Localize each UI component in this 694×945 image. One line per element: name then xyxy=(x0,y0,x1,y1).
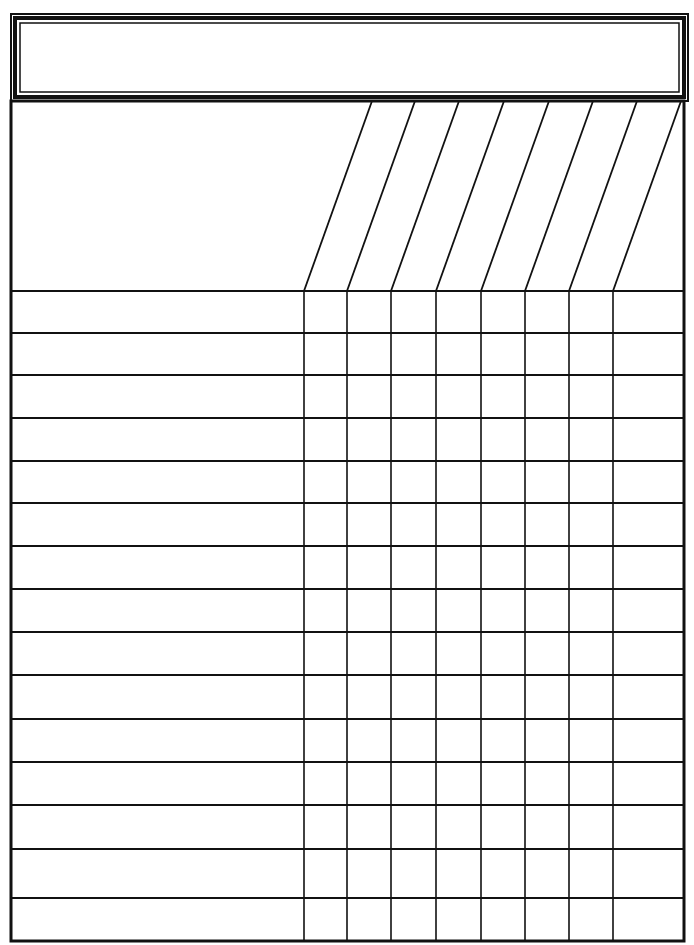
check-cell[interactable] xyxy=(481,675,525,719)
check-cell[interactable] xyxy=(613,805,684,849)
check-cell[interactable] xyxy=(569,418,613,461)
check-cell[interactable] xyxy=(613,418,684,461)
check-cell[interactable] xyxy=(391,675,436,719)
check-cell[interactable] xyxy=(347,632,391,675)
row-label-cell[interactable] xyxy=(11,719,304,762)
check-cell[interactable] xyxy=(525,805,569,849)
check-cell[interactable] xyxy=(481,461,525,503)
check-cell[interactable] xyxy=(481,333,525,375)
check-cell[interactable] xyxy=(525,898,569,941)
check-cell[interactable] xyxy=(304,461,347,503)
check-cell[interactable] xyxy=(481,632,525,675)
check-cell[interactable] xyxy=(304,849,347,898)
check-cell[interactable] xyxy=(391,589,436,632)
row-label-cell[interactable] xyxy=(11,805,304,849)
row-label-cell[interactable] xyxy=(11,675,304,719)
check-cell[interactable] xyxy=(613,503,684,546)
check-cell[interactable] xyxy=(391,546,436,589)
check-cell[interactable] xyxy=(436,632,481,675)
check-cell[interactable] xyxy=(613,675,684,719)
check-cell[interactable] xyxy=(569,849,613,898)
check-cell[interactable] xyxy=(347,849,391,898)
check-cell[interactable] xyxy=(347,503,391,546)
check-cell[interactable] xyxy=(525,849,569,898)
check-cell[interactable] xyxy=(347,418,391,461)
check-cell[interactable] xyxy=(481,291,525,333)
check-cell[interactable] xyxy=(436,675,481,719)
check-cell[interactable] xyxy=(436,461,481,503)
check-cell[interactable] xyxy=(436,849,481,898)
row-label-cell[interactable] xyxy=(11,375,304,418)
check-cell[interactable] xyxy=(304,546,347,589)
check-cell[interactable] xyxy=(525,418,569,461)
check-cell[interactable] xyxy=(481,589,525,632)
check-cell[interactable] xyxy=(391,333,436,375)
check-cell[interactable] xyxy=(613,589,684,632)
check-cell[interactable] xyxy=(347,546,391,589)
check-cell[interactable] xyxy=(436,719,481,762)
check-cell[interactable] xyxy=(391,762,436,805)
check-cell[interactable] xyxy=(304,418,347,461)
check-cell[interactable] xyxy=(304,719,347,762)
check-cell[interactable] xyxy=(569,762,613,805)
check-cell[interactable] xyxy=(613,461,684,503)
check-cell[interactable] xyxy=(436,546,481,589)
row-label-cell[interactable] xyxy=(11,589,304,632)
check-cell[interactable] xyxy=(525,632,569,675)
check-cell[interactable] xyxy=(436,375,481,418)
check-cell[interactable] xyxy=(525,589,569,632)
check-cell[interactable] xyxy=(436,418,481,461)
check-cell[interactable] xyxy=(481,898,525,941)
check-cell[interactable] xyxy=(569,503,613,546)
check-cell[interactable] xyxy=(436,333,481,375)
check-cell[interactable] xyxy=(525,762,569,805)
check-cell[interactable] xyxy=(569,805,613,849)
check-cell[interactable] xyxy=(347,805,391,849)
row-label-cell[interactable] xyxy=(11,632,304,675)
check-cell[interactable] xyxy=(481,762,525,805)
check-cell[interactable] xyxy=(481,503,525,546)
check-cell[interactable] xyxy=(304,805,347,849)
check-cell[interactable] xyxy=(613,291,684,333)
check-cell[interactable] xyxy=(569,632,613,675)
row-label-cell[interactable] xyxy=(11,898,304,941)
row-label-cell[interactable] xyxy=(11,333,304,375)
check-cell[interactable] xyxy=(436,589,481,632)
check-cell[interactable] xyxy=(391,898,436,941)
check-cell[interactable] xyxy=(481,546,525,589)
check-cell[interactable] xyxy=(436,503,481,546)
check-cell[interactable] xyxy=(347,333,391,375)
check-cell[interactable] xyxy=(569,375,613,418)
check-cell[interactable] xyxy=(613,375,684,418)
check-cell[interactable] xyxy=(613,849,684,898)
check-cell[interactable] xyxy=(569,898,613,941)
row-label-cell[interactable] xyxy=(11,291,304,333)
check-cell[interactable] xyxy=(347,762,391,805)
check-cell[interactable] xyxy=(569,333,613,375)
row-label-cell[interactable] xyxy=(11,849,304,898)
check-cell[interactable] xyxy=(613,333,684,375)
row-label-cell[interactable] xyxy=(11,546,304,589)
check-cell[interactable] xyxy=(436,291,481,333)
check-cell[interactable] xyxy=(525,675,569,719)
check-cell[interactable] xyxy=(569,546,613,589)
check-cell[interactable] xyxy=(525,333,569,375)
check-cell[interactable] xyxy=(436,805,481,849)
check-cell[interactable] xyxy=(347,675,391,719)
check-cell[interactable] xyxy=(304,333,347,375)
check-cell[interactable] xyxy=(613,762,684,805)
check-cell[interactable] xyxy=(304,291,347,333)
check-cell[interactable] xyxy=(391,719,436,762)
check-cell[interactable] xyxy=(569,461,613,503)
check-cell[interactable] xyxy=(569,291,613,333)
check-cell[interactable] xyxy=(391,849,436,898)
check-cell[interactable] xyxy=(613,898,684,941)
check-cell[interactable] xyxy=(525,461,569,503)
check-cell[interactable] xyxy=(347,589,391,632)
check-cell[interactable] xyxy=(304,375,347,418)
check-cell[interactable] xyxy=(525,291,569,333)
check-cell[interactable] xyxy=(525,719,569,762)
check-cell[interactable] xyxy=(569,589,613,632)
check-cell[interactable] xyxy=(347,898,391,941)
check-cell[interactable] xyxy=(304,898,347,941)
